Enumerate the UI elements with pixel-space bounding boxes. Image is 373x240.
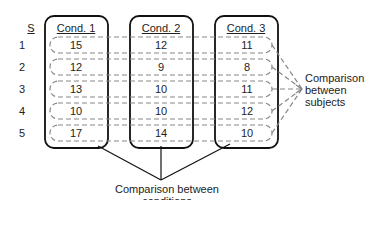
subject-3: 3 <box>15 83 29 95</box>
cond2-value: 12 <box>141 39 181 51</box>
cond1-value: 12 <box>56 61 96 73</box>
label-line: subjects <box>305 96 364 108</box>
cond1-header: Cond. 1 <box>46 22 106 34</box>
cond2-value: 10 <box>141 105 181 117</box>
cond3-header: Cond. 3 <box>216 22 276 34</box>
cond2-value: 14 <box>141 127 181 139</box>
subject-1: 1 <box>15 39 29 51</box>
cond1-value: 13 <box>56 83 96 95</box>
subject-5: 5 <box>15 127 29 139</box>
cond3-value: 8 <box>227 61 267 73</box>
cond2-header: Cond. 2 <box>131 22 191 34</box>
subject-header: S <box>24 22 38 34</box>
subject-4: 4 <box>15 105 29 117</box>
cond3-value: 12 <box>227 105 267 117</box>
cond2-value: 9 <box>141 61 181 73</box>
between-subjects-label: Comparison between subjects <box>305 72 364 108</box>
cond2-value: 10 <box>141 83 181 95</box>
cond3-value: 10 <box>227 127 267 139</box>
cond1-value: 10 <box>56 105 96 117</box>
label-line: between <box>305 84 364 96</box>
cond1-value: 17 <box>56 127 96 139</box>
label-line: Comparison <box>305 72 364 84</box>
cond3-value: 11 <box>227 83 267 95</box>
subject-2: 2 <box>15 61 29 73</box>
cond3-value: 11 <box>227 39 267 51</box>
cond1-value: 15 <box>56 39 96 51</box>
between-conditions-label: Comparison between conditions <box>92 183 242 200</box>
